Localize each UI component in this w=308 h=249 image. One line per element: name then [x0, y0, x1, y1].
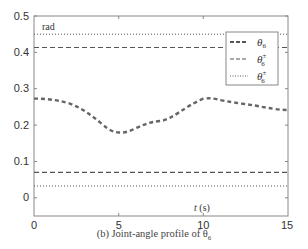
y-tick-label: 0.2 [14, 119, 29, 131]
y-tick-label: 0.3 [14, 82, 29, 94]
legend: θ6 θ±6 θ±6 [226, 32, 278, 85]
figure-caption: (b) Joint-angle profile of θ6 [0, 228, 308, 242]
y-tick-label: 0.1 [14, 155, 29, 167]
joint-angle-chart: 0.5 0.4 0.3 0.2 0.1 0 0 5 10 15 rad t (s… [0, 0, 308, 249]
theta6-curve [34, 98, 288, 132]
y-tick-label: 0 [23, 191, 29, 203]
y-tick-label: 0.4 [14, 46, 29, 58]
x-axis-label: t (s) [194, 202, 210, 214]
y-axis-label: rad [42, 21, 55, 32]
y-tick-label: 0.5 [14, 10, 29, 22]
